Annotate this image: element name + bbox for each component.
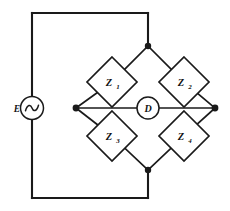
node-dot-top — [145, 43, 151, 49]
z3-subscript: 3 — [115, 137, 120, 145]
node-dot-left — [73, 105, 80, 112]
outer-supply-loop — [32, 13, 148, 198]
detector-symbol[interactable]: D — [137, 97, 159, 119]
z1-label: Z — [105, 77, 113, 88]
source-label: E — [13, 104, 20, 114]
circuit-diagram-canvas: E Z 1 — [0, 0, 230, 211]
z1-subscript: 1 — [116, 83, 120, 91]
ac-source-symbol — [21, 97, 44, 120]
node-dot-bottom — [145, 167, 151, 173]
node-dot-right — [212, 105, 219, 112]
z2-subscript: 2 — [187, 83, 192, 91]
detector-label: D — [143, 103, 151, 114]
z4-label: Z — [177, 131, 185, 142]
z3-label: Z — [105, 131, 113, 142]
z2-label: Z — [177, 77, 185, 88]
ac-bridge-schematic: E Z 1 — [0, 0, 230, 211]
z4-subscript: 4 — [187, 137, 192, 145]
